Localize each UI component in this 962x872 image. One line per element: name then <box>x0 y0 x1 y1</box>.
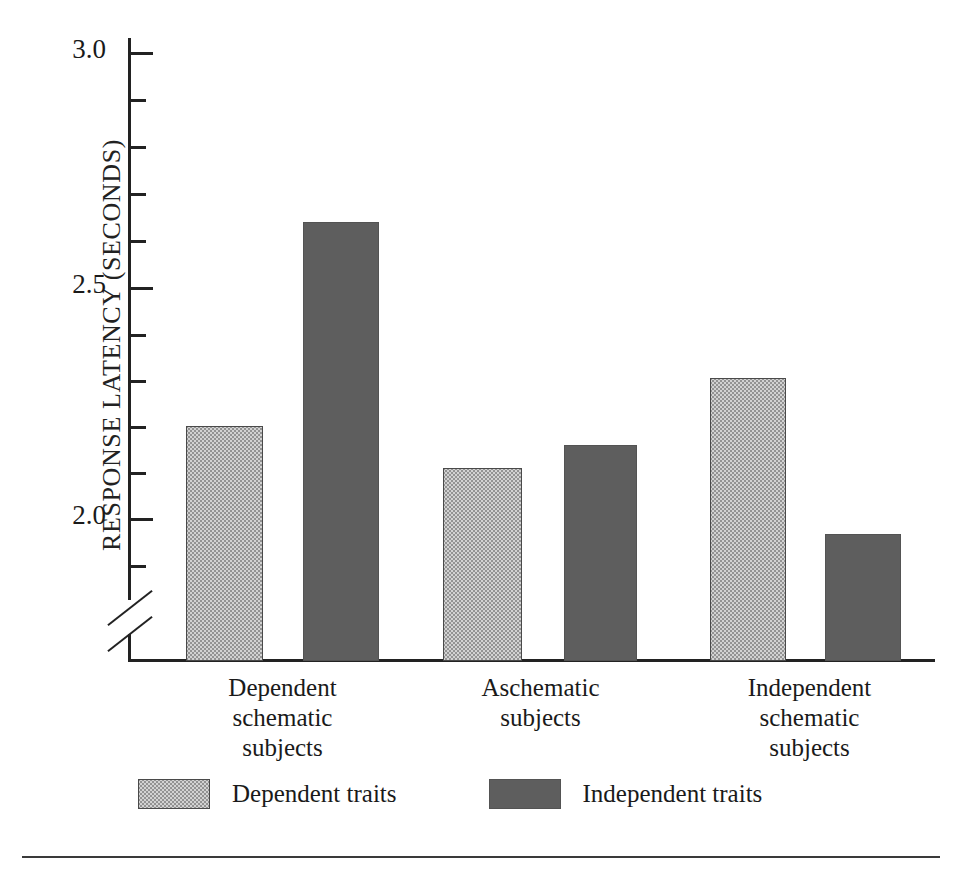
bar-dependent-schematic-dependent-traits <box>186 426 263 661</box>
x-category-label-independent-schematic: Independent schematic subjects <box>692 673 927 763</box>
y-tick-minor-2-7 <box>131 193 146 196</box>
x-category-line: Aschematic <box>428 673 653 703</box>
footer-horizontal-rule <box>22 856 940 858</box>
legend-swatch-dependent-traits <box>138 779 210 809</box>
y-tick-label-2-5: 2.5 <box>18 269 106 300</box>
y-tick-minor-1-95 <box>131 565 146 568</box>
y-tick-minor-2-8 <box>131 146 146 149</box>
chart-legend: Dependent traits Independent traits <box>138 779 762 809</box>
y-tick-minor-2-3 <box>131 380 146 383</box>
y-tick-major-2-5 <box>131 287 153 290</box>
bar-dependent-schematic-independent-traits <box>303 222 379 661</box>
x-category-line: schematic <box>692 703 927 733</box>
bar-aschematic-dependent-traits <box>443 468 522 661</box>
x-category-line: Independent <box>692 673 927 703</box>
x-category-label-aschematic: Aschematic subjects <box>428 673 653 733</box>
y-tick-major-3-0 <box>131 52 153 55</box>
x-category-line: subjects <box>165 733 400 763</box>
legend-swatch-independent-traits <box>489 779 561 809</box>
bar-independent-schematic-dependent-traits <box>710 378 786 661</box>
y-axis-line-lower-segment <box>128 634 131 662</box>
y-tick-minor-2-1 <box>131 472 146 475</box>
bar-independent-schematic-independent-traits <box>825 534 901 661</box>
legend-label-dependent-traits: Dependent traits <box>232 780 397 808</box>
x-category-line: Dependent <box>165 673 400 703</box>
bar-aschematic-independent-traits <box>564 445 637 661</box>
x-category-line: subjects <box>692 733 927 763</box>
legend-item-dependent-traits: Dependent traits <box>138 779 397 809</box>
legend-label-independent-traits: Independent traits <box>583 780 763 808</box>
y-tick-label-3-0: 3.0 <box>18 34 106 65</box>
y-tick-label-2-0: 2.0 <box>18 500 106 531</box>
x-category-line: schematic <box>165 703 400 733</box>
x-category-line: subjects <box>428 703 653 733</box>
legend-item-independent-traits: Independent traits <box>489 779 763 809</box>
x-category-label-dependent-schematic: Dependent schematic subjects <box>165 673 400 763</box>
y-tick-minor-2-4 <box>131 334 146 337</box>
y-tick-minor-2-6 <box>131 240 146 243</box>
y-axis-line <box>128 38 131 600</box>
bar-chart-figure: RESPONSE LATENCY (SECONDS) 3.0 2.5 2.0 D… <box>0 0 962 872</box>
y-tick-major-2-0 <box>131 518 153 521</box>
y-tick-minor-2-2 <box>131 426 146 429</box>
y-tick-minor-2-9 <box>131 99 146 102</box>
